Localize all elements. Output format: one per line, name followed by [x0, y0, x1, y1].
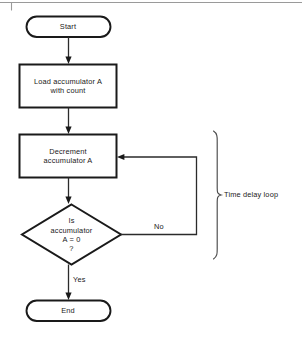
flowchart-canvas: [0, 0, 302, 340]
flowchart-figure: Start Load accumulator A with count Decr…: [0, 0, 302, 340]
edge-load-to-decrement: [65, 108, 71, 135]
node-decrement-accumulator: [20, 135, 117, 178]
edge-decision-no-loop: [117, 154, 197, 235]
node-start: [27, 17, 111, 38]
time-delay-loop-brace-icon: [214, 131, 222, 259]
edge-decision-yes-to-end: [65, 265, 71, 301]
node-decision-accumulator-zero: [22, 205, 121, 265]
edge-decrement-to-decision: [65, 178, 71, 205]
node-load-accumulator: [20, 65, 117, 108]
page-rule: [0, 2, 302, 11]
node-end: [27, 301, 111, 322]
edge-start-to-load: [65, 37, 71, 64]
